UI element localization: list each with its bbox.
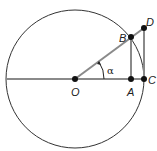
- label-d: D: [146, 16, 154, 28]
- label-b: B: [119, 32, 126, 44]
- label-c: C: [148, 74, 156, 86]
- point-a: [128, 76, 134, 82]
- point-o: [72, 76, 78, 82]
- point-c: [141, 76, 147, 82]
- unit-circle-diagram: O A B C D α: [0, 0, 157, 151]
- label-o: O: [71, 86, 80, 98]
- label-a: A: [126, 86, 134, 98]
- label-alpha: α: [107, 65, 114, 76]
- point-b: [128, 34, 134, 40]
